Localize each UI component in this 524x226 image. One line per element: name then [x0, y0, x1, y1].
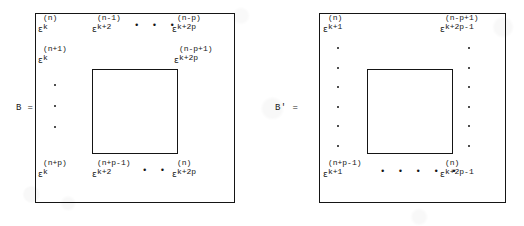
dot	[337, 67, 339, 69]
dot	[337, 86, 339, 88]
superscript: (n-1)	[97, 14, 121, 22]
superscript: (n-p+1)	[445, 14, 479, 22]
subscript: k	[43, 54, 67, 62]
matrix-b-left-column-ellipsis	[53, 84, 57, 128]
dot	[468, 125, 470, 127]
subscript: k+2	[97, 168, 131, 176]
subscript: k+1	[328, 23, 342, 31]
subscript: k+2p-1	[445, 168, 474, 176]
superscript: (n)	[328, 14, 342, 22]
matrix-b-entry-top-right: ε(n-p)k+2p	[172, 18, 201, 35]
superscript: (n)	[445, 159, 474, 167]
matrix-b-entry-top-second: ε(n-1)k+2	[92, 18, 121, 35]
matrix-b-prime-inner-border	[367, 69, 453, 154]
matrix-b-entry-top-left: ε(n)k	[38, 18, 57, 35]
dot	[337, 125, 339, 127]
superscript: (n)	[177, 159, 196, 167]
matrix-b-entry-bottom-left: ε(n+p)k	[38, 163, 67, 180]
matrix-b-entry-bottom-second: ε(n+p-1)k+2	[92, 163, 130, 180]
dot	[468, 47, 470, 49]
subscript: k	[43, 168, 67, 176]
dot	[468, 86, 470, 88]
subscript: k	[43, 23, 57, 31]
matrix-b-prime-left-column-ellipsis	[336, 47, 340, 147]
superscript: (n+p-1)	[97, 159, 131, 167]
subscript: k+2p	[179, 54, 213, 62]
dot	[468, 67, 470, 69]
dot	[337, 106, 339, 108]
matrix-b-entry-bottom-right: ε(n)k+2p	[172, 163, 196, 180]
dot	[468, 106, 470, 108]
matrix-block-b: B = ε(n)k ε(n-1)k+2 • • • ε(n-p)k+2p ε(n…	[0, 0, 262, 226]
matrix-b-inner-border	[92, 69, 178, 154]
superscript: (n+p)	[43, 159, 67, 167]
matrix-b-entry-second-row-left: ε(n+1)k	[38, 49, 67, 66]
dot	[337, 47, 339, 49]
superscript: (n+p-1)	[328, 159, 362, 167]
subscript: k+2p-1	[445, 23, 479, 31]
matrix-b-prime-entry-bottom-left: ε(n+p-1)k+1	[323, 163, 361, 180]
subscript: k+2p	[177, 168, 196, 176]
superscript: (n-p)	[177, 14, 201, 22]
matrix-b-prime-equation-label: B' =	[275, 103, 298, 113]
dot	[337, 145, 339, 147]
dot	[54, 126, 56, 128]
subscript: k+2p	[177, 23, 201, 31]
superscript: (n-p+1)	[179, 45, 213, 53]
dot	[54, 84, 56, 86]
subscript: k+1	[328, 168, 362, 176]
subscript: k+2	[97, 23, 121, 31]
matrix-b-prime-right-column-ellipsis	[467, 47, 471, 147]
matrix-b-bottom-row-ellipsis: • •	[142, 167, 169, 176]
matrix-b-prime-entry-top-right: ε(n-p+1)k+2p-1	[440, 18, 478, 35]
superscript: (n)	[43, 14, 57, 22]
matrix-block-b-prime: B' = ε(n)k+1 ε(n-p+1)k+2p-1 ε(n+p-1)k+1 …	[262, 0, 524, 226]
matrix-b-entry-second-row-right: ε(n-p+1)k+2p	[174, 49, 212, 66]
matrix-b-equation-label: B =	[16, 103, 33, 113]
superscript: (n+1)	[43, 45, 67, 53]
matrix-b-prime-entry-top-left: ε(n)k+1	[323, 18, 342, 35]
matrix-b-prime-entry-bottom-right: ε(n)k+2p-1	[440, 163, 474, 180]
dot	[54, 105, 56, 107]
dot	[468, 145, 470, 147]
